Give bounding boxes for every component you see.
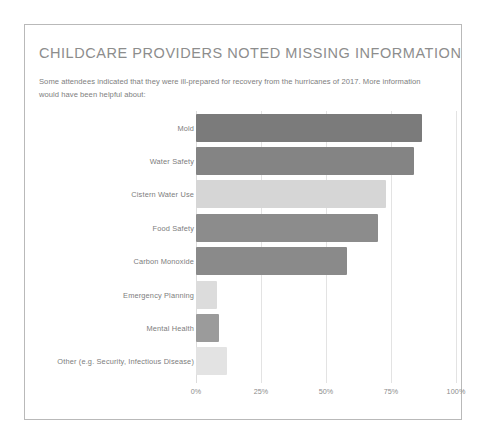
bar-category-label: Cistern Water Use (131, 190, 194, 199)
bar-category-label: Food Safety (152, 223, 194, 232)
x-tick-100: 100% (447, 387, 466, 396)
bar (196, 180, 386, 208)
bar (196, 247, 347, 275)
bar-row: Water Safety (25, 144, 461, 177)
bar-row: Mold (25, 111, 461, 144)
bar-row: Other (e.g. Security, Infectious Disease… (25, 345, 461, 378)
bar (196, 214, 378, 242)
bar-row: Carbon Monoxide (25, 245, 461, 278)
bar (196, 347, 227, 375)
x-tick-0: 0% (191, 387, 202, 396)
bar-row: Mental Health (25, 311, 461, 344)
bar-category-label: Mental Health (146, 324, 194, 333)
x-tick-75: 75% (384, 387, 399, 396)
bar (196, 147, 414, 175)
bar (196, 114, 422, 142)
slide-frame: CHILDCARE PROVIDERS NOTED MISSING INFORM… (24, 24, 462, 420)
chart-subtitle: Some attendees indicated that they were … (39, 75, 439, 101)
bar-category-label: Emergency Planning (123, 290, 194, 299)
bar-category-label: Water Safety (150, 157, 194, 166)
bar-category-label: Mold (177, 123, 194, 132)
page-title: CHILDCARE PROVIDERS NOTED MISSING INFORM… (39, 45, 461, 61)
x-axis-tick-labels: 0%25%50%75%100% (25, 387, 461, 403)
bar (196, 281, 217, 309)
bar-category-label: Carbon Monoxide (133, 257, 194, 266)
bar-row: Food Safety (25, 211, 461, 244)
bar-row: Emergency Planning (25, 278, 461, 311)
bar-row: Cistern Water Use (25, 178, 461, 211)
bar-category-label: Other (e.g. Security, Infectious Disease… (57, 357, 194, 366)
bar (196, 314, 219, 342)
bars-layer: MoldWater SafetyCistern Water UseFood Sa… (25, 111, 461, 383)
x-tick-50: 50% (319, 387, 334, 396)
x-tick-25: 25% (254, 387, 269, 396)
bar-chart: MoldWater SafetyCistern Water UseFood Sa… (25, 111, 461, 411)
